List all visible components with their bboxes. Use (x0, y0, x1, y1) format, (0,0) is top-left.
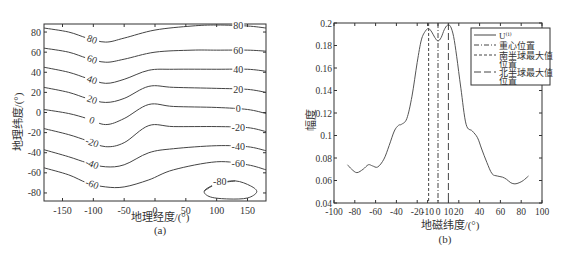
x-tick-label: 100 (535, 207, 550, 217)
y-tick-label: 0.1 (320, 131, 332, 141)
x-axis-label: 地磁纬度/(°) (400, 216, 500, 232)
y-tick-label: 0.04 (315, 199, 332, 209)
y-tick-label: 0.06 (315, 176, 332, 186)
y-tick-label: 0 (36, 107, 41, 118)
legend-label: U⁽ⁱ⁾ (499, 31, 512, 41)
y-tick-label: 0.18 (315, 41, 332, 51)
y-tick-label: 0.16 (315, 64, 332, 74)
panel-caption: (b) (415, 233, 475, 245)
x-tick-label: -100 (84, 205, 102, 216)
contour-label: 0 (236, 103, 241, 114)
contour-label: -60 (232, 158, 245, 169)
y-tick-label: 80 (31, 27, 41, 38)
contour-label: -20 (232, 122, 245, 133)
x-axis-label: 地理经度/(°) (110, 208, 210, 224)
panel-caption: (a) (130, 224, 190, 236)
contour-label: -80 (213, 176, 226, 187)
y-axis-label: 幅度 (302, 100, 318, 140)
y-tick-label: -60 (28, 167, 41, 178)
y-tick-label: 0.2 (320, 19, 332, 29)
x-tick-label: -100 (325, 207, 343, 217)
x-tick-label: -80 (348, 207, 361, 217)
y-tick-label: -80 (28, 187, 41, 198)
legend-label-line2: 位置 (499, 75, 517, 86)
y-tick-label: -20 (28, 127, 41, 138)
x-tick-label: 150 (240, 205, 255, 216)
y-tick-label: 0.08 (315, 154, 332, 164)
contour-panel-a: -150-100-50050100150806040200-20-40-60-8… (0, 0, 290, 255)
x-tick-label: -150 (53, 205, 71, 216)
y-tick-label: 40 (31, 67, 41, 78)
y-axis-label: 地理纬度/(°) (9, 67, 25, 177)
contour-label: 60 (233, 45, 243, 56)
x-tick-label: 80 (516, 207, 526, 217)
x-tick-label: 100 (209, 205, 224, 216)
legend: U⁽ⁱ⁾重心位置南半球最大值位置北半球最大值位置 (471, 28, 553, 86)
contour-label: 40 (233, 64, 243, 75)
legend-label: 重心位置 (499, 40, 535, 51)
contour-label: -40 (232, 141, 245, 152)
y-tick-label: -40 (28, 147, 41, 158)
line-panel-b: -100-80-60-40-20-10010204060801000.040.0… (290, 0, 576, 255)
x-tick-label: -60 (369, 207, 382, 217)
y-tick-label: 20 (31, 87, 41, 98)
contour-line (204, 181, 257, 199)
y-tick-label: 60 (31, 47, 41, 58)
y-tick-label: 0.14 (315, 86, 332, 96)
contour-label: 80 (233, 20, 243, 31)
contour-label: 20 (233, 84, 243, 95)
